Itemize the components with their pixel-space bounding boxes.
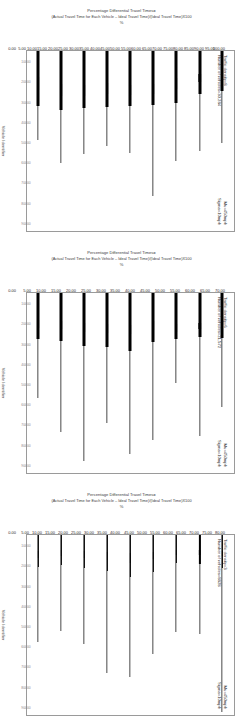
box-interquartile-range: [83, 51, 86, 108]
plot-area: Traffic density=8Number of vehicles=30,2…: [26, 50, 235, 232]
category-tick-label: 50000: [21, 141, 30, 145]
category-axis-title: Vehicle Identifier: [1, 292, 6, 474]
annotation-traffic-density: Traffic density=6Number of vehicles=21,5…: [215, 297, 228, 348]
plot-area: Traffic density=6Number of vehicles=21,5…: [26, 292, 235, 474]
boxplot-panel-1: Percentage Differential Travel Times=(Ac…: [0, 0, 243, 242]
box-interquartile-range: [60, 51, 63, 110]
box-interquartile-range: [83, 293, 86, 346]
category-tick-label: 40000: [21, 121, 30, 125]
category-tick-label: 80000: [21, 686, 30, 690]
annotation-speed-params: Mu=450mphSigma=10mph: [215, 440, 228, 467]
category-tick-label: 70000: [21, 665, 30, 669]
category-axis-ticks: 1000020000300004000050000600007000080000…: [12, 534, 26, 716]
annotation-traffic-density: Traffic density=8Number of vehicles=30,2…: [215, 55, 228, 106]
category-tick-label: 20000: [21, 564, 30, 568]
box-interquartile-range: [129, 51, 132, 106]
panel-container: Percentage Differential Travel Times=(Ac…: [0, 0, 243, 726]
category-tick-label: 10000: [21, 302, 30, 306]
value-axis-ticks: 100.0095.0090.0085.0080.0075.0070.0065.0…: [22, 22, 233, 48]
box-interquartile-range: [37, 51, 40, 106]
box-interquartile-range: [107, 535, 109, 571]
category-tick-label: 60000: [21, 161, 30, 165]
category-tick-label: 90000: [21, 222, 30, 226]
box-interquartile-range: [130, 535, 132, 577]
category-tick-label: 20000: [21, 80, 30, 84]
box-interquartile-range: [153, 535, 155, 572]
category-tick-label: 50000: [21, 383, 30, 387]
category-tick-label: 30000: [21, 101, 30, 105]
plot-area: Traffic density=3Number of vehicles=8828…: [26, 534, 235, 716]
category-tick-label: 20000: [21, 322, 30, 326]
category-tick-label: 10000: [21, 544, 30, 548]
box-interquartile-range: [175, 51, 178, 103]
category-tick-label: 50000: [21, 625, 30, 629]
box-interquartile-range: [152, 51, 155, 105]
box-interquartile-range: [152, 293, 155, 342]
box-interquartile-range: [198, 51, 201, 94]
category-axis-title: Vehicle Identifier: [1, 534, 6, 716]
box-interquartile-range: [129, 293, 132, 351]
category-axis-ticks: 1000020000300004000050000600007000080000…: [12, 292, 26, 474]
box-interquartile-range: [106, 293, 109, 347]
category-tick-label: 70000: [21, 181, 30, 185]
box-interquartile-range: [37, 293, 40, 339]
box-interquartile-range: [176, 535, 178, 563]
category-tick-label: 40000: [21, 605, 30, 609]
boxplot-panel-2: Percentage Differential Travel Times=(Ac…: [0, 242, 243, 484]
box-interquartile-range: [60, 293, 63, 341]
category-tick-label: 40000: [21, 363, 30, 367]
category-tick-label: 30000: [21, 343, 30, 347]
box-interquartile-range: [38, 535, 40, 567]
annotation-speed-params: Mu=450mphSigma=10mph: [215, 682, 228, 709]
box-interquartile-range: [84, 535, 86, 568]
category-tick-label: 90000: [21, 706, 30, 710]
category-tick-label: 80000: [21, 444, 30, 448]
category-tick-label: 90000: [21, 464, 30, 468]
box-interquartile-range: [198, 293, 201, 337]
box-interquartile-range: [61, 535, 63, 565]
box-interquartile-range: [175, 293, 178, 339]
value-axis-ticks: 80.0075.0070.0065.0060.0055.0050.0045.00…: [22, 506, 233, 532]
category-tick-label: 60000: [21, 645, 30, 649]
category-axis-title: Vehicle Identifier: [1, 50, 6, 232]
category-tick-label: 10000: [21, 60, 30, 64]
annotation-speed-params: Mu=450mphSigma=10mph: [215, 198, 228, 225]
figure-canvas: Percentage Differential Travel Times=(Ac…: [0, 0, 243, 726]
value-axis-ticks: 70.0065.0060.0055.0050.0045.0040.0035.00…: [22, 264, 233, 290]
box-interquartile-range: [199, 535, 201, 564]
category-tick-label: 70000: [21, 423, 30, 427]
category-tick-label: 80000: [21, 202, 30, 206]
category-tick-label: 30000: [21, 585, 30, 589]
box-interquartile-range: [106, 51, 109, 107]
annotation-traffic-density: Traffic density=3Number of vehicles=8828: [215, 539, 228, 587]
category-axis-ticks: 1000020000300004000050000600007000080000…: [12, 50, 26, 232]
boxplot-panel-3: Percentage Differential Travel Times=(Ac…: [0, 484, 243, 726]
category-tick-label: 60000: [21, 403, 30, 407]
